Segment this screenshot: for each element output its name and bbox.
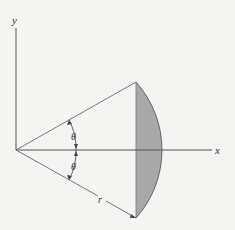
upper-angle-arrow-bottom xyxy=(74,144,78,149)
x-axis-label: x xyxy=(214,144,220,156)
upper-theta-label: θ xyxy=(71,131,76,142)
radius-arrowhead xyxy=(130,214,136,218)
lower-radius-line xyxy=(16,150,98,196)
radius-label: r xyxy=(98,194,102,205)
circular-segment-diagram: y x θ θ r xyxy=(0,0,235,230)
lower-angle-arrow-top xyxy=(74,151,78,156)
upper-radius-line xyxy=(16,82,136,150)
lower-theta-label: θ xyxy=(71,161,76,172)
diagram-svg: y x θ θ r xyxy=(0,0,235,230)
y-axis-label: y xyxy=(11,14,17,26)
